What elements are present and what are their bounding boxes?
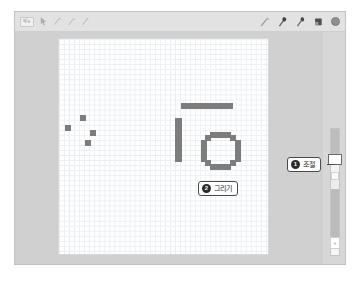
toolbar-left-group: 메뉴 bbox=[15, 16, 90, 27]
callout-connector-line bbox=[327, 164, 335, 165]
toolbar: 메뉴 bbox=[15, 12, 346, 32]
ring-top bbox=[210, 132, 231, 138]
dot-mark bbox=[80, 115, 86, 121]
callout-adjust-label: 조절 bbox=[303, 160, 315, 169]
pen-icon[interactable] bbox=[259, 16, 270, 28]
callout-adjust: 1 조절 bbox=[287, 157, 321, 172]
marker-icon[interactable] bbox=[277, 16, 288, 28]
screenshot-root: 메뉴 bbox=[0, 0, 360, 288]
dot-mark bbox=[90, 130, 96, 136]
pencil-icon[interactable] bbox=[295, 16, 306, 28]
ring-corner-br bbox=[230, 160, 236, 166]
stroke-layer bbox=[59, 39, 268, 254]
eraser-icon[interactable] bbox=[313, 16, 324, 28]
ring-corner-tl bbox=[205, 135, 211, 141]
dot-mark bbox=[85, 140, 91, 146]
ring-left bbox=[201, 140, 207, 162]
thickness-slider-secondary-marker[interactable] bbox=[331, 172, 339, 180]
toolbar-right-group bbox=[259, 16, 346, 28]
dot-mark bbox=[65, 125, 71, 131]
ring-bottom bbox=[210, 164, 231, 170]
drawing-canvas[interactable] bbox=[58, 38, 269, 255]
shape-icon[interactable] bbox=[67, 16, 76, 27]
side-rail: + bbox=[323, 32, 346, 265]
vertical-bar bbox=[175, 118, 182, 162]
callout-draw-label: 그리기 bbox=[214, 184, 232, 193]
text-icon[interactable] bbox=[81, 16, 90, 27]
ring-corner-tr bbox=[230, 135, 236, 141]
color-swatch[interactable] bbox=[331, 17, 340, 26]
menu-button[interactable]: 메뉴 bbox=[20, 17, 34, 27]
callout-badge-1: 1 bbox=[291, 160, 300, 169]
ring-right bbox=[235, 140, 241, 162]
horizontal-bar bbox=[181, 103, 233, 109]
pointer-icon[interactable] bbox=[39, 16, 48, 27]
lasso-icon[interactable] bbox=[53, 16, 62, 27]
app-window: 메뉴 bbox=[14, 11, 346, 265]
add-button[interactable]: + bbox=[330, 237, 340, 249]
callout-badge-2: 2 bbox=[202, 184, 211, 193]
ring-corner-bl bbox=[205, 160, 211, 166]
callout-draw: 2 그리기 bbox=[198, 181, 238, 196]
